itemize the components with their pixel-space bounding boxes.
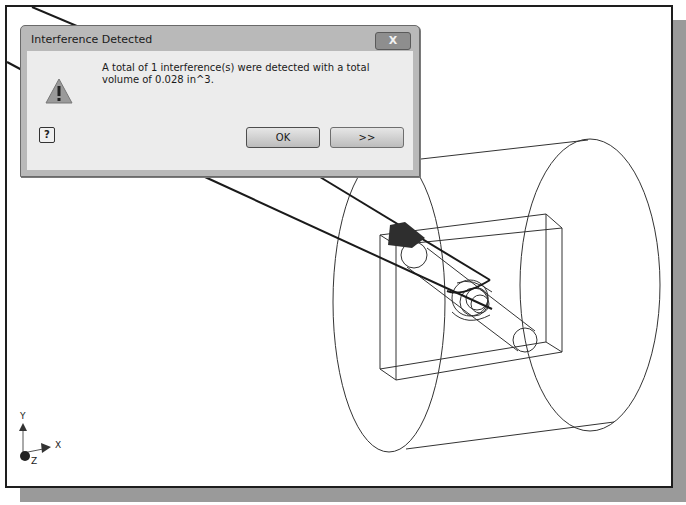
z-axis-dot-icon — [20, 451, 30, 461]
y-axis-arrow-icon — [19, 423, 27, 431]
dialog-title: Interference Detected — [31, 33, 152, 46]
dialog-body: A total of 1 interference(s) were detect… — [27, 51, 413, 170]
interference-dialog: Interference Detected X A total of 1 int… — [20, 25, 420, 177]
x-axis-arrow-icon — [41, 443, 51, 453]
interference-region — [388, 222, 425, 248]
cylinder-left-end — [333, 152, 445, 452]
more-details-button[interactable]: >> — [330, 127, 404, 148]
close-button[interactable]: X — [375, 32, 411, 50]
dialog-message: A total of 1 interference(s) were detect… — [102, 62, 402, 86]
message-line-2: volume of 0.028 in^3. — [102, 74, 402, 86]
help-button[interactable]: ? — [39, 127, 55, 143]
z-axis-label: Z — [31, 456, 37, 466]
dialog-titlebar[interactable]: Interference Detected X — [21, 26, 419, 51]
message-line-1: A total of 1 interference(s) were detect… — [102, 62, 402, 74]
ok-button[interactable]: OK — [246, 127, 320, 148]
cylinder-right-end — [520, 139, 660, 431]
coordinate-triad: Y X Z — [15, 415, 65, 465]
y-axis-label: Y — [20, 411, 26, 421]
warning-icon — [45, 78, 73, 104]
x-axis-label: X — [55, 440, 61, 450]
